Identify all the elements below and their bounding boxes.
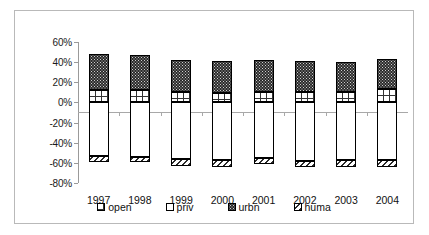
y-tick-label: -20% [49,117,72,128]
bar-segment-priv[interactable] [171,102,191,158]
bar-group[interactable] [336,42,356,183]
legend-swatch-huma-icon [294,203,302,211]
bar-segment-priv[interactable] [254,102,274,157]
bar-segment-urbn[interactable] [377,59,397,89]
y-tick-mark [74,183,78,184]
legend-label: priv [177,201,194,213]
x-tick-mark [161,112,162,116]
bar-segment-priv[interactable] [130,102,150,156]
bar-group[interactable] [130,42,150,183]
bar-segment-open[interactable] [377,89,397,102]
bar-segment-priv[interactable] [336,102,356,159]
bar-segment-priv[interactable] [377,102,397,159]
bar-segment-open[interactable] [295,92,315,102]
legend-item-priv[interactable]: priv [166,201,194,213]
bar-segment-urbn[interactable] [336,62,356,92]
bar-segment-priv[interactable] [212,102,232,159]
y-tick-label: 0% [58,97,72,108]
bar-segment-huma[interactable] [295,161,315,167]
bar-segment-huma[interactable] [130,157,150,162]
bar-group[interactable] [254,42,274,183]
bar-segment-huma[interactable] [336,160,356,167]
bar-segment-urbn[interactable] [89,54,109,90]
y-tick-mark [74,42,78,43]
bar-segment-huma[interactable] [212,160,232,167]
bar-group[interactable] [377,42,397,183]
x-tick-mark [284,112,285,116]
bar-segment-huma[interactable] [171,159,191,166]
legend-item-urbn[interactable]: urbn [228,201,260,213]
legend-label: huma [305,201,331,213]
bar-segment-urbn[interactable] [130,55,150,90]
y-tick-mark [74,123,78,124]
bar-group[interactable] [295,42,315,183]
bar-segment-open[interactable] [254,92,274,102]
bar-segment-priv[interactable] [295,102,315,160]
bar-segment-huma[interactable] [89,156,109,162]
bar-segment-open[interactable] [130,90,150,102]
bar-segment-urbn[interactable] [171,60,191,92]
bar-segment-urbn[interactable] [295,61,315,92]
y-tick-mark [74,163,78,164]
y-tick-label: -80% [49,178,72,189]
bar-group[interactable] [89,42,109,183]
bar-group[interactable] [212,42,232,183]
legend-item-huma[interactable]: huma [294,201,331,213]
bar-segment-open[interactable] [336,92,356,102]
legend-swatch-urbn-icon [228,203,236,211]
bar-segment-huma[interactable] [377,160,397,167]
bar-group[interactable] [171,42,191,183]
bar-segment-huma[interactable] [254,158,274,164]
bar-segment-urbn[interactable] [254,60,274,92]
bar-segment-urbn[interactable] [212,61,232,93]
bar-segment-open[interactable] [171,92,191,102]
chart-frame: 60%40%20%0%-20%-40%-60%-80% 199719981999… [14,10,414,224]
chart-legend: openprivurbnhuma [15,201,413,213]
bar-segment-open[interactable] [89,90,109,102]
legend-item-open[interactable]: open [97,201,131,213]
y-tick-label: 60% [53,37,72,48]
legend-label: urbn [239,201,260,213]
y-tick-mark [74,62,78,63]
x-tick-mark [367,112,368,116]
bar-segment-open[interactable] [212,93,232,102]
x-tick-mark [243,112,244,116]
y-tick-label: 20% [53,77,72,88]
y-tick-label: 40% [53,57,72,68]
legend-swatch-priv-icon [166,203,174,211]
y-tick-mark [74,143,78,144]
bar-segment-priv[interactable] [89,102,109,155]
y-tick-label: -60% [49,157,72,168]
legend-swatch-open-icon [97,203,105,211]
legend-label: open [108,201,131,213]
plot-area: 60%40%20%0%-20%-40%-60%-80% 199719981999… [78,42,408,183]
x-tick-mark [202,112,203,116]
x-tick-mark [119,112,120,116]
y-tick-mark [74,102,78,103]
x-tick-mark [326,112,327,116]
y-tick-mark [74,82,78,83]
y-tick-label: -40% [49,137,72,148]
